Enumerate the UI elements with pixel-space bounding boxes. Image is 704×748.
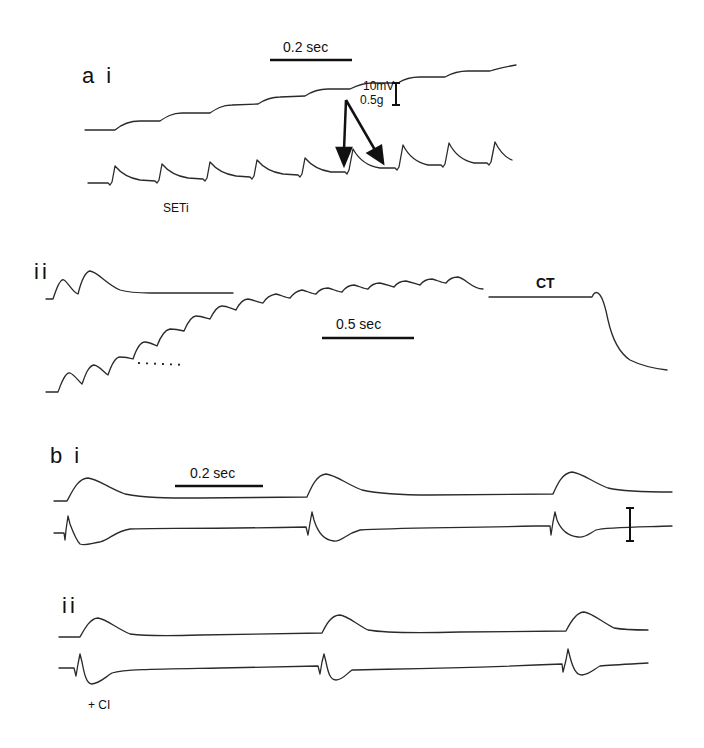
aii-time-scale-label: 0.5 sec bbox=[336, 316, 381, 332]
ai-annotation-seti: SETi bbox=[163, 201, 189, 215]
aii-twitch-trace bbox=[46, 271, 233, 299]
ai-potential-trace bbox=[88, 142, 512, 185]
panel-bi-traces bbox=[54, 472, 672, 545]
ai-arrows bbox=[337, 100, 383, 165]
ai-amplitude-label-mv: 10mV bbox=[363, 79, 394, 93]
bi-potential-trace bbox=[54, 512, 672, 545]
panel-label-aii: ii bbox=[34, 259, 50, 285]
aii-ct-trace bbox=[489, 293, 667, 370]
aii-dotted-line bbox=[138, 363, 186, 365]
aii-tetanus-trace bbox=[46, 277, 483, 392]
panel-label-bi: b i bbox=[50, 443, 82, 469]
bi-force-trace bbox=[54, 472, 672, 501]
figure-traces bbox=[0, 0, 704, 748]
panel-ai-traces bbox=[85, 60, 516, 185]
panel-label-ai: a i bbox=[82, 63, 114, 89]
bii-potential-trace bbox=[59, 649, 648, 684]
ai-force-trace bbox=[85, 65, 516, 130]
bii-annotation-ci: + CI bbox=[88, 698, 110, 712]
bi-amplitude-scale-bar bbox=[626, 508, 634, 541]
ai-time-scale-label: 0.2 sec bbox=[283, 39, 328, 55]
ai-amplitude-label-g: 0.5g bbox=[360, 93, 383, 107]
aii-annotation-ct: CT bbox=[536, 275, 555, 291]
panel-bii-traces bbox=[59, 612, 648, 684]
bi-time-scale-label: 0.2 sec bbox=[190, 465, 235, 481]
panel-label-bii: ii bbox=[62, 593, 78, 619]
bii-force-trace bbox=[59, 612, 648, 637]
